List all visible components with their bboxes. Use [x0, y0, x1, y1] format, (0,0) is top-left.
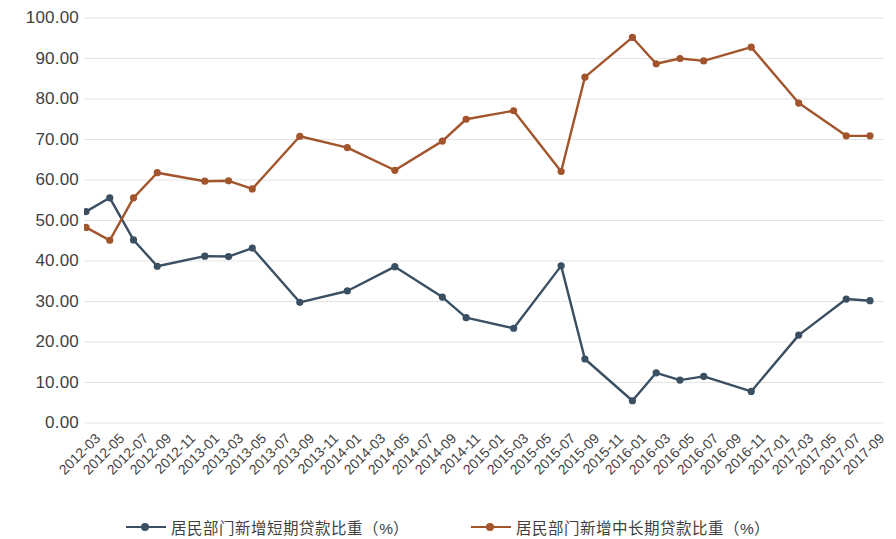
data-point: [795, 99, 802, 106]
series-line-1: [86, 37, 870, 240]
data-point: [344, 287, 351, 294]
data-point: [629, 34, 636, 41]
data-point: [558, 168, 565, 175]
data-point: [249, 185, 256, 192]
data-point: [748, 44, 755, 51]
x-axis-tick-labels: 2012-032012-052012-072012-092012-112013-…: [0, 424, 896, 514]
data-point: [201, 178, 208, 185]
data-point: [581, 74, 588, 81]
data-point: [463, 116, 470, 123]
data-point: [653, 369, 660, 376]
data-point: [510, 325, 517, 332]
data-point: [676, 376, 683, 383]
data-point: [748, 388, 755, 395]
data-point: [700, 57, 707, 64]
data-point: [391, 167, 398, 174]
legend-marker-icon: [471, 521, 511, 533]
y-axis-tick-label: 90.00: [35, 49, 79, 69]
data-point: [866, 297, 873, 304]
legend-label: 居民部门新增中长期贷款比重（%）: [516, 516, 770, 538]
data-point: [391, 263, 398, 270]
data-point: [130, 236, 137, 243]
plot-area: [84, 0, 884, 440]
data-point: [843, 295, 850, 302]
series-line-0: [86, 198, 870, 401]
data-point: [795, 332, 802, 339]
y-axis-tick-labels: 0.0010.0020.0030.0040.0050.0060.0070.008…: [0, 0, 79, 440]
data-point: [106, 237, 113, 244]
gridlines: [84, 18, 884, 423]
data-point: [653, 60, 660, 67]
data-point: [225, 177, 232, 184]
data-point: [629, 397, 636, 404]
data-point: [439, 293, 446, 300]
line-chart: 0.0010.0020.0030.0040.0050.0060.0070.008…: [0, 0, 896, 539]
y-axis-tick-label: 10.00: [35, 373, 79, 393]
data-point: [225, 253, 232, 260]
data-point: [106, 194, 113, 201]
chart-legend: 居民部门新增短期贷款比重（%）居民部门新增中长期贷款比重（%）: [0, 514, 896, 539]
data-point: [439, 138, 446, 145]
legend-entry-0[interactable]: 居民部门新增短期贷款比重（%）: [126, 516, 409, 538]
data-point: [154, 169, 161, 176]
y-axis-tick-label: 60.00: [35, 170, 79, 190]
data-point: [676, 55, 683, 62]
y-axis-tick-label: 80.00: [35, 89, 79, 109]
plot-svg: [84, 0, 884, 440]
y-axis-tick-label: 20.00: [35, 332, 79, 352]
data-series-layer: [84, 34, 874, 404]
legend-marker-icon: [126, 521, 166, 533]
data-point: [296, 299, 303, 306]
legend-label: 居民部门新增短期贷款比重（%）: [171, 516, 409, 538]
y-axis-tick-label: 40.00: [35, 251, 79, 271]
data-point: [581, 355, 588, 362]
legend-entry-1[interactable]: 居民部门新增中长期贷款比重（%）: [471, 516, 770, 538]
data-point: [296, 133, 303, 140]
data-point: [510, 107, 517, 114]
data-point: [344, 144, 351, 151]
data-point: [700, 373, 707, 380]
data-point: [249, 244, 256, 251]
y-axis-tick-label: 50.00: [35, 211, 79, 231]
data-point: [463, 314, 470, 321]
data-point: [201, 253, 208, 260]
data-point: [843, 132, 850, 139]
y-axis-tick-label: 30.00: [35, 292, 79, 312]
y-axis-tick-label: 70.00: [35, 130, 79, 150]
data-point: [154, 263, 161, 270]
data-point: [130, 194, 137, 201]
y-axis-tick-label: 100.00: [26, 8, 79, 28]
data-point: [558, 262, 565, 269]
data-point: [866, 132, 873, 139]
